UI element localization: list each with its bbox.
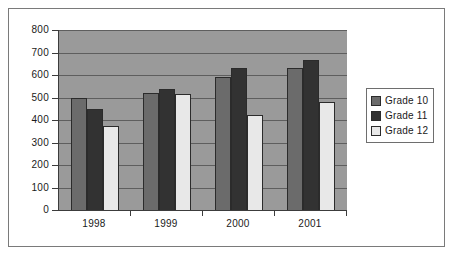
chart-legend: Grade 10Grade 11Grade 12 — [366, 88, 434, 143]
bar[interactable] — [231, 68, 247, 210]
legend-swatch-icon — [371, 96, 381, 106]
legend-label: Grade 12 — [385, 125, 428, 136]
legend-label: Grade 11 — [385, 110, 428, 121]
y-axis-tick-label: 400 — [31, 115, 49, 125]
x-axis-tick — [274, 211, 275, 216]
x-axis-tick — [346, 211, 347, 216]
y-axis-tick-label: 100 — [31, 183, 49, 193]
bar[interactable] — [87, 109, 103, 210]
y-axis-tick-label: 600 — [31, 70, 49, 80]
bar[interactable] — [287, 68, 303, 210]
plot-area — [58, 30, 347, 211]
legend-swatch-icon — [371, 111, 381, 121]
y-axis-tick-label: 500 — [31, 93, 49, 103]
y-axis-tick-label: 800 — [31, 25, 49, 35]
bar[interactable] — [159, 89, 175, 210]
bar[interactable] — [247, 115, 263, 210]
legend-label: Grade 10 — [385, 95, 428, 106]
bar-group — [203, 30, 275, 210]
bar[interactable] — [215, 77, 231, 210]
bar[interactable] — [175, 94, 191, 210]
bar-group — [275, 30, 347, 210]
y-axis-tick-label: 200 — [31, 160, 49, 170]
bar[interactable] — [103, 126, 119, 210]
x-axis-tick-label: 1998 — [58, 218, 130, 229]
bar[interactable] — [143, 93, 159, 210]
x-axis-tick-label: 2001 — [274, 218, 346, 229]
chart-frame: 8007006005004003002001000 19981999200020… — [8, 8, 445, 247]
x-axis-tick — [130, 211, 131, 216]
bar[interactable] — [319, 102, 335, 210]
bar[interactable] — [303, 60, 319, 210]
bar-group — [59, 30, 131, 210]
legend-item[interactable]: Grade 12 — [371, 123, 428, 138]
y-axis-tick-label: 0 — [43, 205, 49, 215]
x-axis-tick — [202, 211, 203, 216]
y-axis-tick-label: 700 — [31, 48, 49, 58]
legend-item[interactable]: Grade 10 — [371, 93, 428, 108]
x-axis-tick-label: 1999 — [130, 218, 202, 229]
y-axis: 8007006005004003002001000 — [9, 9, 58, 190]
legend-item[interactable]: Grade 11 — [371, 108, 428, 123]
bar[interactable] — [71, 98, 87, 211]
bar-group — [131, 30, 203, 210]
x-axis-tick-label: 2000 — [202, 218, 274, 229]
y-axis-tick-label: 300 — [31, 138, 49, 148]
legend-swatch-icon — [371, 126, 381, 136]
